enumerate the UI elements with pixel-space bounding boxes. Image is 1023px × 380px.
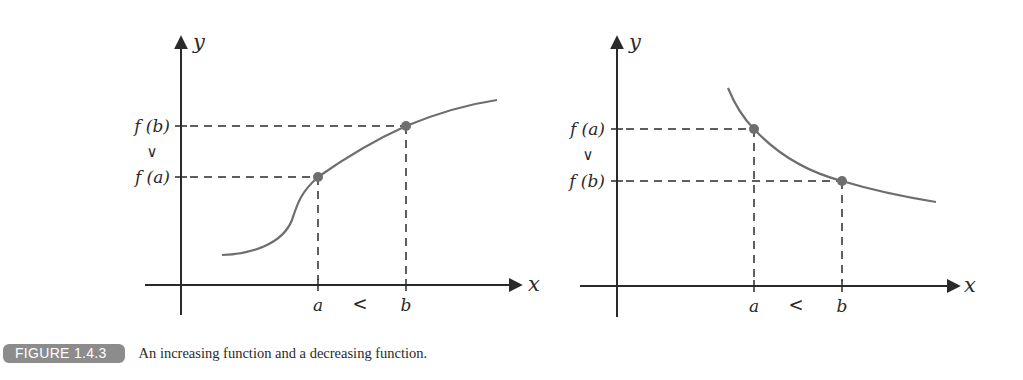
decreasing-curve: [728, 88, 936, 202]
x-tick-label-a: a: [313, 295, 323, 315]
point-a: [749, 124, 759, 134]
y-tick-label-top: f (a): [568, 119, 605, 139]
panel-increasing: y x f (b) ∨ f (a) a < b: [132, 30, 540, 315]
x-relation: <: [788, 294, 803, 315]
figure-label-badge: FIGURE 1.4.3: [3, 344, 125, 363]
dashed-guides: [626, 129, 842, 281]
y-relation: ∨: [583, 146, 594, 164]
point-b: [837, 176, 847, 186]
x-tick-label-b: b: [401, 295, 412, 315]
x-relation: <: [352, 293, 367, 314]
x-tick-label-a: a: [749, 296, 759, 316]
y-tick-label-top: f (b): [132, 116, 170, 136]
y-axis-label: y: [628, 30, 642, 54]
caption-text: An increasing function and a decreasing …: [139, 345, 428, 362]
point-b: [401, 121, 411, 131]
figure-caption: FIGURE 1.4.3 An increasing function and …: [3, 344, 427, 363]
y-tick-label-bottom: f (b): [567, 171, 605, 191]
y-tick-label-bottom: f (a): [133, 167, 170, 187]
panel-decreasing: y x f (a) ∨ f (b) a < b: [567, 30, 976, 317]
point-a: [313, 172, 323, 182]
x-axis-label: x: [528, 272, 540, 296]
x-tick-label-b: b: [837, 296, 848, 316]
y-axis-label: y: [192, 30, 206, 54]
figure-diagrams: y x f (b) ∨ f (a) a < b y x: [0, 0, 1023, 340]
x-axis-label: x: [964, 273, 976, 297]
y-relation: ∨: [147, 143, 158, 161]
